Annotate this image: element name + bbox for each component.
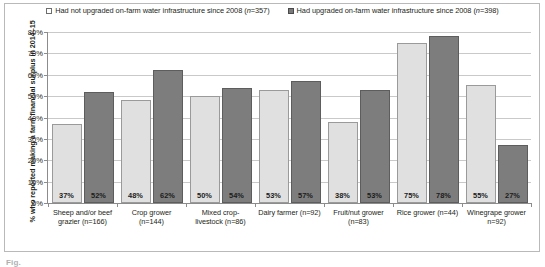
bar-value-label: 78% [430, 191, 458, 201]
bar-value-label: 38% [329, 191, 357, 201]
legend-swatch-filled-square-icon [288, 8, 294, 14]
y-axis-tick-label: 20% [28, 156, 43, 165]
chart-legend: Had not upgraded on-farm water infrastru… [0, 7, 545, 14]
x-axis-category-label-line: n=92) [458, 217, 535, 226]
bar-value-label: 53% [260, 191, 288, 201]
x-axis-category-label: Rice grower (n=44) [389, 208, 466, 217]
bar-not-upgraded[interactable]: 75% [397, 43, 427, 203]
plot-area: 0%10%20%30%40%50%60%70%80%37%52%Sheep an… [47, 32, 531, 204]
y-axis-tick-label: 40% [28, 113, 43, 122]
y-axis-tick-label: 60% [28, 70, 43, 79]
bar-group: 53%57% [255, 32, 324, 203]
legend-swatch-open-square-icon [46, 8, 52, 14]
x-axis-tick [255, 203, 256, 207]
x-axis-category-label: Crop grower(n=144) [113, 208, 190, 226]
legend-label-upgraded: Had upgraded on-farm water infrastructur… [297, 7, 499, 14]
x-axis-tick [186, 203, 187, 207]
x-axis-category-label: Winegrape growern=92) [458, 208, 535, 226]
bar-value-label: 55% [467, 191, 495, 201]
x-axis-category-label-line: (n=83) [320, 217, 397, 226]
bar-not-upgraded[interactable]: 48% [121, 100, 151, 203]
y-axis-tick-label: 30% [28, 134, 43, 143]
bar-group: 50%54% [186, 32, 255, 203]
x-axis-category-label-line: grazier (n=166) [44, 217, 121, 226]
x-axis-tick [117, 203, 118, 207]
bar-value-label: 54% [223, 191, 251, 201]
legend-label-upgraded-prefix: Had upgraded on-farm water infrastructur… [297, 6, 476, 15]
bar-upgraded[interactable]: 62% [153, 70, 183, 203]
x-axis-tick [531, 203, 532, 207]
bar-upgraded[interactable]: 52% [84, 92, 114, 203]
x-axis-category-label: Fruit/nut grower(n=83) [320, 208, 397, 226]
bar-group: 38%53% [324, 32, 393, 203]
x-axis-category-label-line: livestock (n=86) [182, 217, 259, 226]
y-axis-tick-label: 70% [28, 49, 43, 58]
bar-not-upgraded[interactable]: 38% [328, 122, 358, 203]
y-axis-tick-label: 50% [28, 92, 43, 101]
bar-value-label: 57% [292, 191, 320, 201]
bar-upgraded[interactable]: 57% [291, 81, 321, 203]
legend-label-not-upgraded-prefix: Had not upgraded on-farm water infrastru… [55, 6, 246, 15]
bar-not-upgraded[interactable]: 53% [259, 90, 289, 203]
bar-upgraded[interactable]: 78% [429, 36, 459, 203]
bar-not-upgraded[interactable]: 50% [190, 96, 220, 203]
legend-item-not-upgraded: Had not upgraded on-farm water infrastru… [46, 7, 269, 14]
bar-group: 37%52% [48, 32, 117, 203]
bar-not-upgraded[interactable]: 37% [52, 124, 82, 203]
x-axis-category-label-line: (n=144) [113, 217, 190, 226]
legend-label-not-upgraded-suffix: =357) [251, 6, 270, 15]
x-axis-category-label: Dairy farmer (n=92) [251, 208, 328, 217]
y-axis-tick-label: 10% [28, 177, 43, 186]
x-axis-category-label-line: Fruit/nut grower [320, 208, 397, 217]
bar-value-label: 48% [122, 191, 150, 201]
bar-value-label: 75% [398, 191, 426, 201]
legend-label-upgraded-suffix: =398) [480, 6, 499, 15]
x-axis-tick [48, 203, 49, 207]
x-axis-category-label-line: Mixed crop- [182, 208, 259, 217]
x-axis-category-label-line: Rice grower (n=44) [389, 208, 466, 217]
x-axis-category-label: Mixed crop-livestock (n=86) [182, 208, 259, 226]
x-axis-category-label-line: Sheep and/or beef [44, 208, 121, 217]
bar-value-label: 37% [53, 191, 81, 201]
x-axis-tick [462, 203, 463, 207]
x-axis-tick [324, 203, 325, 207]
bar-group: 48%62% [117, 32, 186, 203]
bar-upgraded[interactable]: 53% [360, 90, 390, 203]
y-axis-tick-label: 0% [32, 199, 43, 208]
bar-value-label: 50% [191, 191, 219, 201]
x-axis-category-label-line: Winegrape grower [458, 208, 535, 217]
bar-group: 75%78% [393, 32, 462, 203]
x-axis-tick [393, 203, 394, 207]
legend-item-upgraded: Had upgraded on-farm water infrastructur… [288, 7, 499, 14]
x-axis-category-label-line: Dairy farmer (n=92) [251, 208, 328, 217]
bar-not-upgraded[interactable]: 55% [466, 85, 496, 203]
bar-upgraded[interactable]: 54% [222, 88, 252, 203]
bar-value-label: 27% [499, 191, 527, 201]
bar-value-label: 62% [154, 191, 182, 201]
bar-group: 55%27% [462, 32, 531, 203]
y-axis-tick-label: 80% [28, 28, 43, 37]
figure-caption-clipped: Fig. [6, 258, 21, 267]
x-axis-category-label-line: Crop grower [113, 208, 190, 217]
bar-upgraded[interactable]: 27% [498, 145, 528, 203]
legend-label-not-upgraded: Had not upgraded on-farm water infrastru… [55, 7, 269, 14]
bar-value-label: 53% [361, 191, 389, 201]
x-axis-category-label: Sheep and/or beefgrazier (n=166) [44, 208, 121, 226]
bar-value-label: 52% [85, 191, 113, 201]
